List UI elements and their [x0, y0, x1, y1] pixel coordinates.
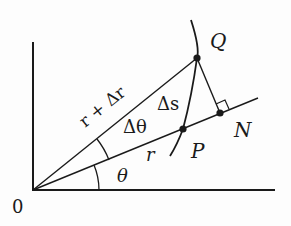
point-n: [216, 109, 223, 116]
theta-arc: [94, 165, 99, 190]
label-delta-s: Δs: [157, 93, 179, 114]
label-q: Q: [210, 29, 226, 53]
polar-arc-length-diagram: Q P N Δs Δθ θ r 0 r + Δr: [0, 0, 291, 226]
diagram-svg: Q P N Δs Δθ θ r 0 r + Δr: [0, 0, 291, 226]
delta-theta-arc: [97, 139, 109, 160]
point-p: [179, 125, 186, 132]
curve: [170, 20, 198, 156]
label-n: N: [233, 118, 253, 142]
point-q: [193, 54, 200, 61]
label-delta-theta: Δθ: [123, 116, 147, 137]
label-theta: θ: [117, 165, 128, 186]
label-p: P: [190, 139, 205, 163]
ray-oq: [33, 58, 197, 190]
label-r-plus-delta-r: r + Δr: [75, 81, 130, 131]
label-origin: 0: [12, 196, 23, 217]
segment-qn: [197, 58, 220, 113]
label-r: r: [146, 144, 156, 165]
